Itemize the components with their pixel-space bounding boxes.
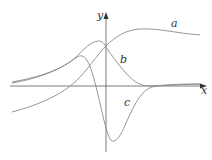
curve-c-label: c <box>124 96 130 109</box>
curve-a-label: a <box>171 17 178 30</box>
x-axis-label: x <box>201 84 208 97</box>
y-axis-arrow-icon <box>104 12 109 19</box>
chart-svg: y x a b c <box>0 0 212 160</box>
curve-b-label: b <box>120 53 127 66</box>
figure: y x a b c <box>0 0 212 160</box>
y-axis-label: y <box>96 9 104 22</box>
